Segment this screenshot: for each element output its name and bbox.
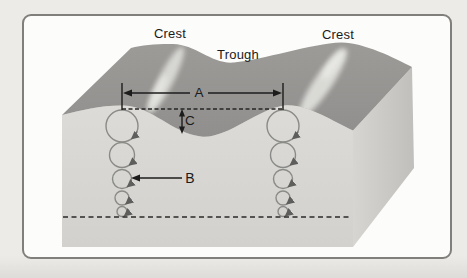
wave-diagram — [0, 0, 467, 278]
crest-right-label: Crest — [322, 27, 354, 42]
wavelength-label: A — [194, 85, 203, 100]
page: { "figure": { "title": "wave-motion-bloc… — [0, 0, 467, 278]
wave-height-label: C — [185, 113, 195, 128]
orbit-label: B — [185, 170, 195, 186]
crest-left-label: Crest — [154, 26, 186, 41]
trough-label: Trough — [217, 47, 259, 62]
